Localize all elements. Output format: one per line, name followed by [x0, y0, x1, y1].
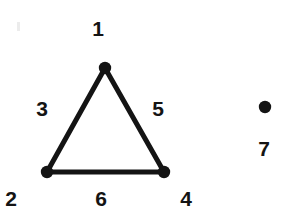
node-apex — [99, 62, 111, 74]
edge-group — [47, 68, 164, 172]
node-label-2: 2 — [5, 188, 17, 209]
edge-label-6: 6 — [95, 188, 107, 209]
edge-label-5: 5 — [152, 98, 164, 119]
edge-left — [47, 68, 105, 172]
node-label-7: 7 — [258, 138, 270, 159]
diagram-canvas: 1 2 3 4 5 6 7 — [0, 0, 285, 216]
edge-right — [105, 68, 164, 172]
node-label-1: 1 — [92, 18, 104, 39]
node-bottom-left — [41, 166, 53, 178]
node-bottom-right — [158, 166, 170, 178]
edge-label-3: 3 — [36, 98, 48, 119]
node-isolated — [259, 101, 271, 113]
node-label-4: 4 — [180, 188, 192, 209]
